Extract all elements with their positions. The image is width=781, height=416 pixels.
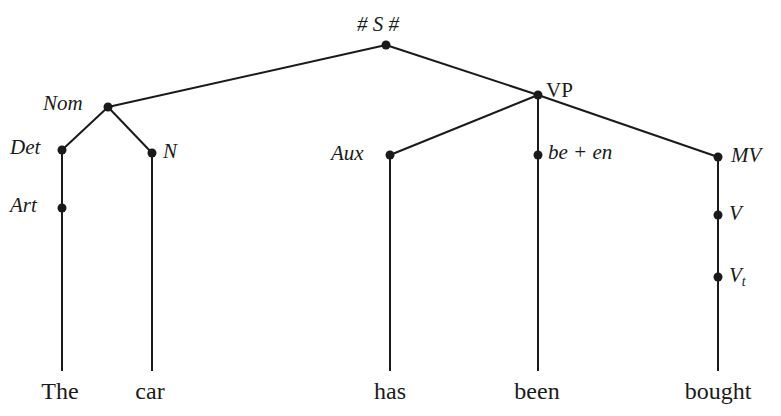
- node-dot-mv: [714, 153, 723, 162]
- node-label-vt-base: V: [729, 263, 742, 287]
- node-dot-n: [148, 149, 157, 158]
- tree-edges: [0, 0, 781, 416]
- node-label-nom: Nom: [43, 93, 83, 114]
- node-dot-vp: [534, 91, 543, 100]
- terminal-word-has: has: [374, 379, 406, 403]
- terminal-word-been: been: [514, 379, 559, 403]
- node-label-v: V: [729, 203, 742, 224]
- node-label-det: Det: [10, 137, 40, 158]
- edge-s-vp: [386, 45, 538, 95]
- node-label-mv: MV: [731, 145, 761, 166]
- node-dot-v: [714, 211, 723, 220]
- terminal-word-bought: bought: [685, 379, 752, 403]
- edge-nom-n: [108, 107, 152, 153]
- node-label-aux: Aux: [331, 143, 364, 164]
- node-dot-det: [58, 146, 67, 155]
- node-dot-vt: [714, 273, 723, 282]
- node-dot-aux: [386, 151, 395, 160]
- node-label-be-en: be + en: [548, 142, 612, 163]
- terminal-word-car: car: [135, 379, 164, 403]
- node-label-s: # S #: [357, 14, 399, 35]
- edge-s-nom: [108, 45, 386, 107]
- node-label-vp: VP: [546, 80, 573, 101]
- node-dot-nom: [104, 103, 113, 112]
- node-dot-s: [382, 41, 391, 50]
- node-label-vt: Vt: [729, 265, 746, 289]
- node-label-art: Art: [10, 195, 37, 216]
- edge-vp-aux: [390, 95, 538, 155]
- terminal-word-the: The: [41, 379, 78, 403]
- node-label-n: N: [163, 141, 177, 162]
- node-label-vt-subscript: t: [742, 274, 746, 289]
- node-dot-art: [58, 204, 67, 213]
- node-dot-be-en: [534, 151, 543, 160]
